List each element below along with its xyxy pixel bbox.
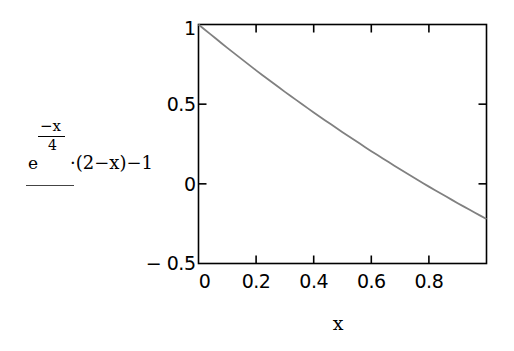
x-tick-label: 0.2: [242, 270, 271, 292]
exponent-numerator: −x: [40, 117, 61, 135]
tick-labels: 00.20.40.60.8− 0.500.51: [146, 17, 443, 293]
x-tick-label: 0.4: [299, 270, 328, 292]
y-tick-label: 0: [184, 173, 196, 195]
axis-ticks: [199, 25, 487, 264]
x-tick-label: 0: [199, 270, 211, 292]
y-tick-label: − 0.5: [146, 252, 196, 274]
y-tick-label: 0.5: [167, 93, 196, 115]
y-axis-label: −x 4 e ·(2−x)−1: [26, 117, 176, 187]
y-tick-label: 1: [184, 17, 196, 39]
x-tick-label: 0.6: [357, 270, 386, 292]
expression-rest: ·(2−x)−1: [70, 152, 153, 173]
x-axis-label: x: [333, 312, 344, 334]
x-tick-label: 0.8: [415, 270, 444, 292]
plot-frame: [199, 25, 487, 264]
expression-underline: [26, 185, 74, 186]
data-series-line: [199, 25, 487, 220]
exponent-base: e: [28, 153, 38, 173]
exponent-denominator: 4: [48, 137, 57, 153]
